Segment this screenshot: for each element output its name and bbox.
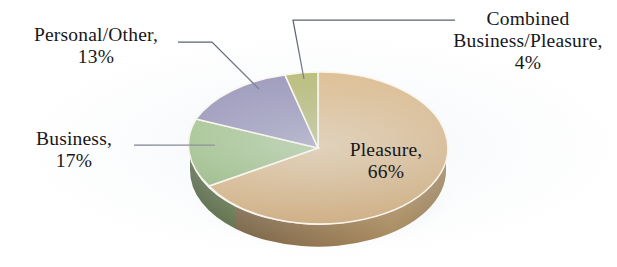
leader-line-combined-business-pleasure (293, 20, 455, 79)
leader-line-personal-other (178, 42, 259, 89)
slice-label-business: Business, 17% (14, 128, 134, 172)
slice-label-combined-business-pleasure: Combined Business/Pleasure, 4% (444, 8, 612, 73)
slice-label-personal-other: Personal/Other, 13% (8, 24, 184, 68)
pie-chart: Personal/Other, 13% Business, 17% Combin… (0, 0, 617, 267)
slice-label-pleasure: Pleasure, 66% (330, 139, 442, 183)
